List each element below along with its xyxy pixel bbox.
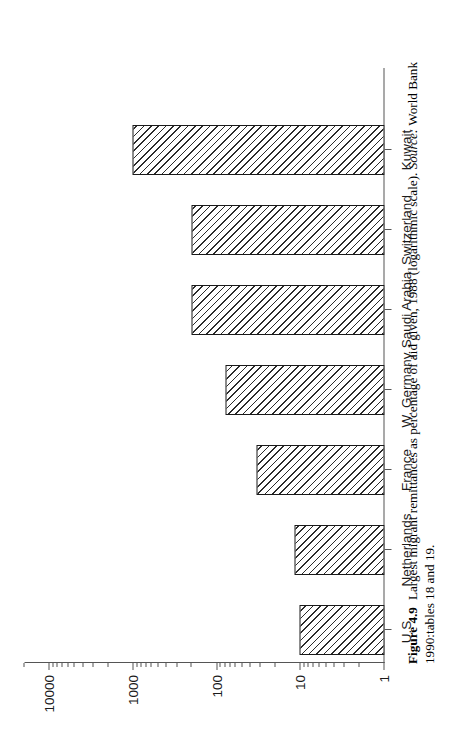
value-tick-minor xyxy=(303,663,304,668)
value-tick-minor xyxy=(23,663,24,668)
value-tick-minor xyxy=(150,663,151,668)
category-tick xyxy=(384,629,391,630)
value-tick-minor xyxy=(307,663,308,668)
value-tick-major xyxy=(132,662,133,670)
value-tick-minor xyxy=(176,663,177,668)
value-tick-minor xyxy=(219,663,220,668)
value-tick-major xyxy=(216,662,217,670)
bar xyxy=(256,445,384,495)
value-tick-label: 10 xyxy=(293,675,308,690)
figure-stage: 110100100010000 U.S.NetherlandsFranceW. … xyxy=(0,0,463,756)
value-tick-minor xyxy=(358,663,359,668)
bar xyxy=(191,205,384,255)
category-tick xyxy=(384,389,391,390)
category-tick xyxy=(384,469,391,470)
bar xyxy=(299,605,384,655)
value-tick-label: 10000 xyxy=(42,675,57,713)
value-tick-minor xyxy=(107,663,108,668)
value-tick-minor xyxy=(82,663,83,668)
bar xyxy=(132,125,384,175)
category-tick xyxy=(384,229,391,230)
source-label: Source: xyxy=(404,129,419,170)
value-tick-major xyxy=(299,662,300,670)
value-tick-minor xyxy=(157,663,158,668)
value-tick-minor xyxy=(145,663,146,668)
value-tick-minor xyxy=(224,663,225,668)
value-tick-minor xyxy=(274,663,275,668)
value-tick-minor xyxy=(92,663,93,668)
value-tick-minor xyxy=(73,663,74,668)
value-tick-minor xyxy=(67,663,68,668)
value-tick-label: 1000 xyxy=(125,675,140,705)
bar xyxy=(294,525,384,575)
figure-number: Figure 4.9 xyxy=(404,607,419,664)
value-tick-minor xyxy=(325,663,326,668)
value-tick-minor xyxy=(52,663,53,668)
value-axis-line xyxy=(24,662,384,663)
value-tick-minor xyxy=(136,663,137,668)
value-tick-major xyxy=(383,662,384,670)
value-tick-minor xyxy=(140,663,141,668)
value-tick-minor xyxy=(333,663,334,668)
value-tick-minor xyxy=(241,663,242,668)
value-tick-label: 1 xyxy=(377,675,392,683)
figure-caption-text: Largest migrant remittances as percentag… xyxy=(404,173,419,600)
value-tick-minor xyxy=(234,663,235,668)
value-tick-minor xyxy=(190,663,191,668)
figure-caption: Figure 4.9Largest migrant remittances as… xyxy=(404,44,437,664)
value-tick-minor xyxy=(61,663,62,668)
value-tick-minor xyxy=(343,663,344,668)
value-tick-minor xyxy=(165,663,166,668)
category-tick xyxy=(384,149,391,150)
value-tick-label: 100 xyxy=(209,675,224,698)
value-tick-minor xyxy=(229,663,230,668)
category-tick xyxy=(384,309,391,310)
value-tick-minor xyxy=(312,663,313,668)
value-tick-minor xyxy=(249,663,250,668)
value-tick-minor xyxy=(259,663,260,668)
value-tick-minor xyxy=(318,663,319,668)
value-tick-major xyxy=(48,662,49,670)
bar xyxy=(225,365,384,415)
value-tick-minor xyxy=(56,663,57,668)
category-tick xyxy=(384,549,391,550)
bar xyxy=(191,285,384,335)
chart-plot-area: 110100100010000 U.S.NetherlandsFranceW. … xyxy=(24,68,384,663)
